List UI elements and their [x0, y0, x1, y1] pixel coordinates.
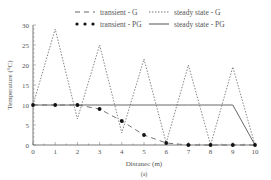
- legend-label: transient - G: [100, 8, 138, 17]
- legend-item-transient-pg: transient - PG: [75, 20, 142, 29]
- x-tick-label: 1: [53, 148, 57, 156]
- data-point: [187, 143, 191, 147]
- data-point: [98, 107, 102, 111]
- data-point: [231, 143, 235, 147]
- x-tick-label: 7: [187, 148, 191, 156]
- legend-item-steady-state-g: steady state - G: [149, 8, 221, 17]
- y-tick-label: 30: [22, 22, 30, 30]
- data-point: [53, 103, 57, 107]
- series-transient-g: [33, 105, 255, 145]
- temperature-distance-chart: transient - G steady state - G transient…: [0, 0, 271, 180]
- y-tick-label: 25: [22, 42, 30, 50]
- data-point: [253, 143, 257, 147]
- data-point: [142, 133, 146, 137]
- x-tick-label: 9: [231, 148, 235, 156]
- x-tick-label: 2: [76, 148, 80, 156]
- x-tick-label: 4: [120, 148, 124, 156]
- series-steady-state-pg: [33, 105, 255, 145]
- data-point: [120, 119, 124, 123]
- legend-label: steady state - G: [174, 8, 221, 17]
- legend-label: steady state - PG: [174, 20, 225, 29]
- y-tick-label: 15: [22, 82, 30, 90]
- marker-swatch-icon: [83, 22, 86, 25]
- figure-caption: (a): [141, 171, 148, 178]
- x-axis-label: Distanec (m): [126, 160, 163, 168]
- y-tick-label: 20: [22, 62, 30, 70]
- x-tick-label: 0: [31, 148, 35, 156]
- x-tick-label: 3: [98, 148, 102, 156]
- y-tick-label: 10: [22, 102, 30, 110]
- x-tick-label: 10: [252, 148, 260, 156]
- data-point: [31, 103, 35, 107]
- marker-swatch-icon: [75, 22, 78, 25]
- legend: transient - G steady state - G transient…: [75, 8, 225, 29]
- legend-item-transient-g: transient - G: [75, 8, 138, 17]
- y-tick-label: 0: [26, 142, 30, 150]
- series-steady-state-g: [33, 29, 255, 145]
- series-transient-pg: [31, 103, 257, 147]
- x-tick-label: 8: [209, 148, 213, 156]
- data-point: [164, 141, 168, 145]
- legend-item-steady-state-pg: steady state - PG: [149, 20, 225, 29]
- y-axis-label: Temperature (°C): [6, 60, 14, 110]
- x-tick-label: 6: [164, 148, 168, 156]
- marker-swatch-icon: [91, 22, 94, 25]
- chart-svg: transient - G steady state - G transient…: [0, 0, 271, 180]
- y-tick-label: 5: [26, 122, 30, 130]
- data-point: [209, 143, 213, 147]
- legend-label: transient - PG: [100, 20, 142, 29]
- plot-area: [31, 29, 257, 147]
- axes: 051015202530012345678910: [22, 22, 259, 157]
- data-point: [76, 103, 80, 107]
- x-tick-label: 5: [142, 148, 146, 156]
